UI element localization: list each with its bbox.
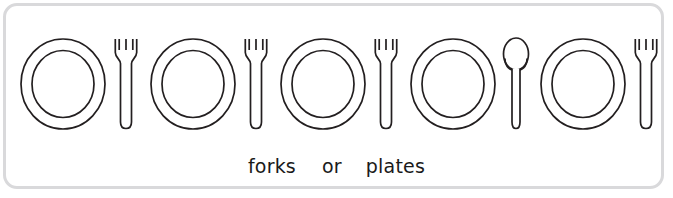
fork-icon	[626, 6, 666, 146]
plate-icon	[408, 6, 498, 146]
place-setting	[148, 6, 274, 146]
caption: forks or plates	[6, 146, 667, 186]
fork-icon	[236, 6, 276, 146]
plate-icon	[18, 6, 108, 146]
plate-icon	[148, 6, 238, 146]
caption-word-forks: forks	[248, 155, 296, 177]
place-setting	[18, 6, 144, 146]
spoon-icon	[496, 6, 536, 146]
caption-word-plates: plates	[366, 155, 425, 177]
fork-icon	[106, 6, 146, 146]
place-setting	[408, 6, 534, 146]
place-setting	[278, 6, 404, 146]
plate-icon	[538, 6, 628, 146]
fork-icon	[366, 6, 406, 146]
caption-connector-or: or	[322, 155, 342, 177]
place-settings-row	[6, 6, 667, 146]
place-setting	[538, 6, 664, 146]
plate-icon	[278, 6, 368, 146]
worksheet-panel: forks or plates	[3, 3, 664, 189]
